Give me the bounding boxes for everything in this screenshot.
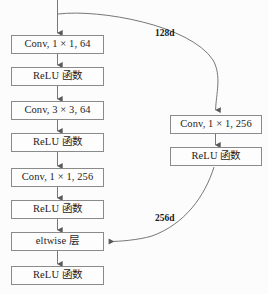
edge-shortcut-in-128d [58,13,218,110]
edge-label-128d: 128d [155,29,175,39]
node-conv2-label: Conv, 3 × 3, 64 [24,105,90,116]
node-shortcut-conv-label: Conv, 1 × 1, 256 [180,119,252,130]
node-conv1-label: Conv, 1 × 1, 64 [24,39,90,50]
node-shortcut-relu-label: ReLU 函数 [192,151,241,162]
edge-shortcut-out-256d [109,167,214,242]
node-relu3-label: ReLU 函数 [33,204,82,215]
node-relu4-label: ReLU 函数 [33,270,82,281]
node-conv3-label: Conv, 1 × 1, 256 [22,172,94,183]
node-shortcut-conv[interactable]: Conv, 1 × 1, 256 [170,115,262,134]
node-shortcut-relu[interactable]: ReLU 函数 [170,147,262,166]
node-conv2[interactable]: Conv, 3 × 3, 64 [11,101,104,120]
edge-label-256d: 256d [155,214,175,224]
node-eltwise-label: eltwise 层 [36,236,79,247]
node-relu2-label: ReLU 函数 [33,137,82,148]
node-relu4[interactable]: ReLU 函数 [11,266,104,285]
node-relu3[interactable]: ReLU 函数 [11,200,104,219]
flowchart-diagram: Conv, 1 × 1, 64 ReLU 函数 Conv, 3 × 3, 64 … [0,0,268,294]
node-conv1[interactable]: Conv, 1 × 1, 64 [11,35,104,54]
node-relu1[interactable]: ReLU 函数 [11,67,104,86]
node-eltwise[interactable]: eltwise 层 [11,232,104,251]
node-conv3[interactable]: Conv, 1 × 1, 256 [11,168,104,187]
node-relu2[interactable]: ReLU 函数 [11,133,104,152]
node-relu1-label: ReLU 函数 [33,71,82,82]
